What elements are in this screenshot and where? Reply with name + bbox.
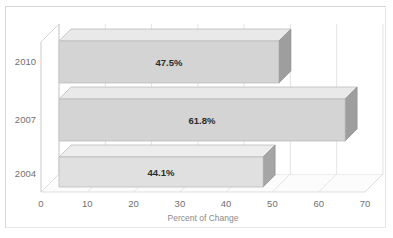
bar-2004[interactable]: 44.1% xyxy=(59,145,275,187)
x-axis-tick-60: 60 xyxy=(313,198,324,209)
y-axis-label-2004: 2004 xyxy=(15,168,36,179)
bar-2010-top xyxy=(59,29,291,41)
x-axis-tick-40: 40 xyxy=(221,198,232,209)
x-axis-tick-10: 10 xyxy=(82,198,93,209)
bar-2007[interactable]: 61.8% xyxy=(59,87,357,141)
chart-container: 47.5% 61.8% 44.1% 2010 2007 2004 0 xyxy=(0,0,393,238)
x-axis-tick-30: 30 xyxy=(175,198,186,209)
x-axis-tick-70: 70 xyxy=(360,198,371,209)
y-axis-label-2007: 2007 xyxy=(15,114,36,125)
bar-2004-top xyxy=(59,145,275,157)
x-axis-tick-50: 50 xyxy=(267,198,278,209)
x-axis-title: Percent of Change xyxy=(168,213,239,223)
y-axis-label-2010: 2010 xyxy=(15,56,36,67)
x-axis-tick-0: 0 xyxy=(38,198,43,209)
bar-2010[interactable]: 47.5% xyxy=(59,29,291,83)
bar-2010-value-label: 47.5% xyxy=(156,57,183,68)
bar-chart-plot: 47.5% 61.8% 44.1% 2010 2007 2004 0 xyxy=(0,0,393,238)
bar-2004-value-label: 44.1% xyxy=(148,167,175,178)
x-axis-tick-20: 20 xyxy=(128,198,139,209)
plot-left-wall xyxy=(41,24,59,192)
bar-2007-top xyxy=(59,87,357,99)
bar-2007-value-label: 61.8% xyxy=(189,115,216,126)
